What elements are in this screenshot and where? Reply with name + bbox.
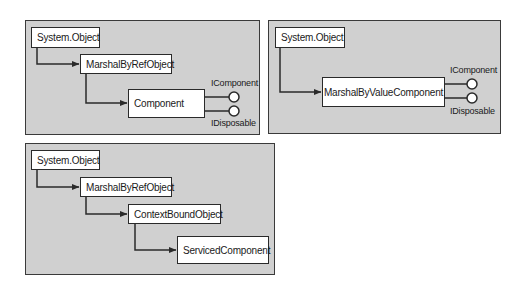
class-box-component: Component <box>128 89 205 118</box>
class-box-marshal-by-value-component: MarshalByValueComponent <box>322 77 445 107</box>
class-box-serviced-component: ServicedComponent <box>177 236 269 264</box>
class-box-system-object-3: System.Object <box>31 150 100 170</box>
interface-label-icomponent: IComponent <box>211 78 258 88</box>
class-box-system-object-2: System.Object <box>275 27 345 48</box>
class-box-system-object: System.Object <box>31 27 100 48</box>
class-box-marshal-by-ref-object: MarshalByRefObject <box>80 54 172 74</box>
interface-label-idisposable-2: IDisposable <box>450 106 495 116</box>
interface-label-icomponent-2: IComponent <box>450 65 497 75</box>
interface-label-idisposable: IDisposable <box>211 118 256 128</box>
class-box-marshal-by-ref-object-3: MarshalByRefObject <box>80 177 172 197</box>
class-box-context-bound-object: ContextBoundObject <box>128 204 221 224</box>
